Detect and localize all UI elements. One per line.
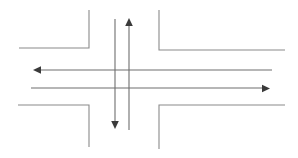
intersection-canvas [0,0,298,158]
intersection-diagram [0,0,298,158]
diagram-background [0,0,298,158]
